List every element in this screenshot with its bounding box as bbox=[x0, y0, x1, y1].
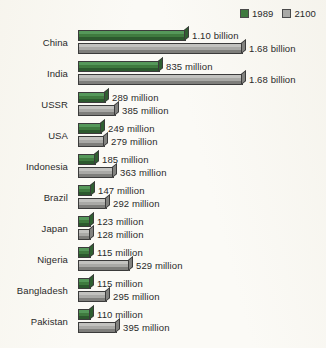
bar-value-label: 295 million bbox=[113, 292, 160, 302]
category-label: Indonesia bbox=[0, 161, 68, 172]
bar-top-highlight bbox=[79, 31, 185, 34]
bar-value-label: 115 million bbox=[97, 248, 143, 258]
bar-value-label: 1.10 billion bbox=[192, 31, 239, 41]
bar-bottom-shadow bbox=[79, 267, 129, 270]
bar-2100 bbox=[78, 74, 243, 85]
chart-row: Japan123 million128 million bbox=[0, 214, 326, 245]
legend-label-1989: 1989 bbox=[252, 9, 274, 19]
bar-2100 bbox=[78, 260, 130, 271]
bar-value-label: 279 million bbox=[111, 137, 158, 147]
bar-1989 bbox=[78, 216, 91, 227]
bar-top-highlight bbox=[79, 292, 106, 295]
bar-1989 bbox=[78, 154, 96, 165]
category-label: China bbox=[0, 37, 68, 48]
bar-1989 bbox=[78, 185, 92, 196]
bar-bottom-shadow bbox=[79, 37, 185, 40]
bar-bottom-shadow bbox=[79, 130, 101, 133]
chart-row: Bangladesh115 million295 million bbox=[0, 276, 326, 307]
chart-row: Indonesia185 million363 million bbox=[0, 152, 326, 183]
chart-row: China1.10 billion1.68 billion bbox=[0, 28, 326, 59]
category-label: Bangladesh bbox=[0, 285, 68, 296]
bar-value-label: 128 million bbox=[97, 230, 144, 240]
bar-value-label: 835 million bbox=[166, 62, 213, 72]
bar-2100 bbox=[78, 229, 91, 240]
bar-end-cap bbox=[89, 243, 94, 258]
bar-1989 bbox=[78, 61, 160, 72]
category-label: Pakistan bbox=[0, 316, 68, 327]
chart-row: Brazil147 million292 million bbox=[0, 183, 326, 214]
bar-end-cap bbox=[114, 101, 119, 116]
category-label: USSR bbox=[0, 99, 68, 110]
bar-top-highlight bbox=[79, 124, 101, 127]
chart-legend: 1989 2100 bbox=[240, 9, 316, 19]
bar-1989 bbox=[78, 123, 102, 134]
bar-2100 bbox=[78, 198, 107, 209]
bar-bottom-shadow bbox=[79, 81, 242, 84]
bar-2100 bbox=[78, 105, 116, 116]
bar-value-label: 363 million bbox=[120, 168, 167, 178]
bar-bottom-shadow bbox=[79, 112, 115, 115]
bar-end-cap bbox=[241, 39, 246, 54]
chart-row: India835 million1.68 billion bbox=[0, 59, 326, 90]
bar-value-label: 185 million bbox=[102, 155, 149, 165]
bar-value-label: 123 million bbox=[97, 217, 144, 227]
bar-top-highlight bbox=[79, 261, 129, 264]
bar-end-cap bbox=[105, 287, 110, 302]
bar-2100 bbox=[78, 43, 243, 54]
bar-bottom-shadow bbox=[79, 143, 104, 146]
bar-1989 bbox=[78, 309, 91, 320]
bar-end-cap bbox=[89, 305, 94, 320]
bar-2100 bbox=[78, 291, 107, 302]
bar-top-highlight bbox=[79, 137, 104, 140]
bar-value-label: 115 million bbox=[97, 279, 143, 289]
bar-1989 bbox=[78, 278, 91, 289]
bar-1989 bbox=[78, 247, 91, 258]
chart-rows: China1.10 billion1.68 billionIndia835 mi… bbox=[0, 28, 326, 338]
bar-end-cap bbox=[89, 274, 94, 289]
bar-value-label: 292 million bbox=[113, 199, 160, 209]
bar-end-cap bbox=[128, 256, 133, 271]
bar-value-label: 385 million bbox=[122, 106, 169, 116]
bar-value-label: 1.68 billion bbox=[249, 44, 296, 54]
bar-end-cap bbox=[184, 26, 189, 41]
bar-top-highlight bbox=[79, 44, 242, 47]
bar-top-highlight bbox=[79, 75, 242, 78]
legend-item-2100: 2100 bbox=[282, 9, 316, 19]
legend-label-2100: 2100 bbox=[294, 9, 316, 19]
bar-value-label: 395 million bbox=[123, 323, 170, 333]
bar-2100 bbox=[78, 136, 105, 147]
bar-bottom-shadow bbox=[79, 298, 106, 301]
chart-row: Pakistan110 million395 million bbox=[0, 307, 326, 338]
bar-value-label: 529 million bbox=[136, 261, 183, 271]
population-bar-chart: 1989 2100 China1.10 billion1.68 billionI… bbox=[0, 0, 326, 348]
bar-bottom-shadow bbox=[79, 68, 159, 71]
bar-top-highlight bbox=[79, 199, 106, 202]
bar-bottom-shadow bbox=[79, 329, 116, 332]
bar-bottom-shadow bbox=[79, 161, 95, 164]
legend-item-1989: 1989 bbox=[240, 9, 274, 19]
bar-value-label: 249 million bbox=[108, 124, 155, 134]
bar-end-cap bbox=[241, 70, 246, 85]
bar-2100 bbox=[78, 322, 117, 333]
bar-end-cap bbox=[89, 225, 94, 240]
bar-end-cap bbox=[100, 119, 105, 134]
category-label: India bbox=[0, 68, 68, 79]
bar-top-highlight bbox=[79, 62, 159, 65]
bar-top-highlight bbox=[79, 323, 116, 326]
bar-value-label: 1.68 billion bbox=[249, 75, 296, 85]
bar-bottom-shadow bbox=[79, 50, 242, 53]
category-label: USA bbox=[0, 130, 68, 141]
bar-1989 bbox=[78, 92, 106, 103]
bar-end-cap bbox=[115, 318, 120, 333]
chart-row: USA249 million279 million bbox=[0, 121, 326, 152]
bar-end-cap bbox=[104, 88, 109, 103]
bar-1989 bbox=[78, 30, 186, 41]
bar-end-cap bbox=[105, 194, 110, 209]
bar-end-cap bbox=[158, 57, 163, 72]
chart-row: USSR289 million385 million bbox=[0, 90, 326, 121]
bar-bottom-shadow bbox=[79, 174, 113, 177]
bar-bottom-shadow bbox=[79, 99, 105, 102]
bar-end-cap bbox=[90, 181, 95, 196]
legend-swatch-1989 bbox=[240, 9, 249, 18]
legend-swatch-2100 bbox=[282, 9, 291, 18]
